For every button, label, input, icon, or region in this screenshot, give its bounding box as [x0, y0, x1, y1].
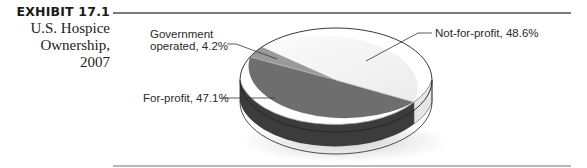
label-for-profit: For-profit, 47.1% [143, 92, 229, 104]
label-government-line-2: operated, 4.2% [150, 40, 228, 52]
pie-chart: Government operated, 4.2% Not-for-profit… [0, 0, 587, 168]
label-not-for-profit: Not-for-profit, 48.6% [435, 27, 539, 39]
label-government-line-1: Government [150, 28, 214, 40]
